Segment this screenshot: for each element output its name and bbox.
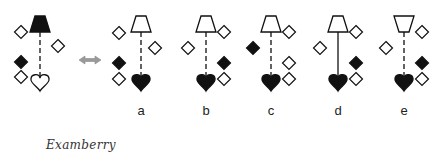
open-diamond-icon (182, 42, 195, 55)
open-diamond-icon (416, 26, 429, 39)
figure-canvas (0, 0, 433, 156)
heart-icon (329, 75, 347, 91)
filled-diamond-icon (416, 57, 429, 70)
filled-diamond-icon (350, 57, 363, 70)
open-diamond-icon (113, 27, 126, 40)
open-diamond-icon (283, 26, 296, 39)
trapezoid-icon (131, 16, 151, 32)
open-diamond-icon (15, 26, 28, 39)
open-diamond-icon (283, 57, 296, 70)
heart-icon (395, 75, 413, 91)
option-b (182, 16, 231, 91)
filled-diamond-icon (218, 57, 231, 70)
open-diamond-icon (218, 26, 231, 39)
option-a (113, 16, 162, 91)
trapezoid-icon (328, 16, 348, 32)
open-diamond-icon (283, 73, 296, 86)
trapezoid-icon (394, 16, 414, 32)
trapezoid-icon (196, 16, 216, 32)
option-c (247, 16, 296, 91)
open-diamond-icon (314, 42, 327, 55)
heart-icon (132, 75, 150, 91)
heart-icon (31, 75, 49, 91)
option-d (314, 16, 363, 91)
option-label-d: d (334, 103, 341, 118)
option-label-c: c (268, 103, 275, 118)
problem-figure (15, 16, 65, 91)
trapezoid-icon (261, 16, 281, 32)
option-label-b: b (202, 103, 209, 118)
watermark: Examberry (46, 138, 116, 152)
open-diamond-icon (113, 73, 126, 86)
open-diamond-icon (350, 26, 363, 39)
double-arrow-shape (79, 56, 101, 64)
open-diamond-icon (15, 71, 28, 84)
open-diamond-icon (52, 40, 65, 53)
trapezoid-icon (30, 16, 50, 32)
answer-options (113, 16, 429, 91)
filled-diamond-icon (113, 57, 126, 70)
option-label-a: a (137, 103, 144, 118)
open-diamond-icon (218, 73, 231, 86)
option-e (380, 16, 429, 91)
option-label-e: e (400, 103, 407, 118)
filled-diamond-icon (15, 56, 28, 69)
heart-icon (197, 75, 215, 91)
open-diamond-icon (149, 42, 162, 55)
open-diamond-icon (350, 73, 363, 86)
heart-icon (262, 75, 280, 91)
filled-diamond-icon (247, 42, 260, 55)
open-diamond-icon (380, 42, 393, 55)
open-diamond-icon (416, 73, 429, 86)
double-arrow-icon (79, 56, 101, 64)
